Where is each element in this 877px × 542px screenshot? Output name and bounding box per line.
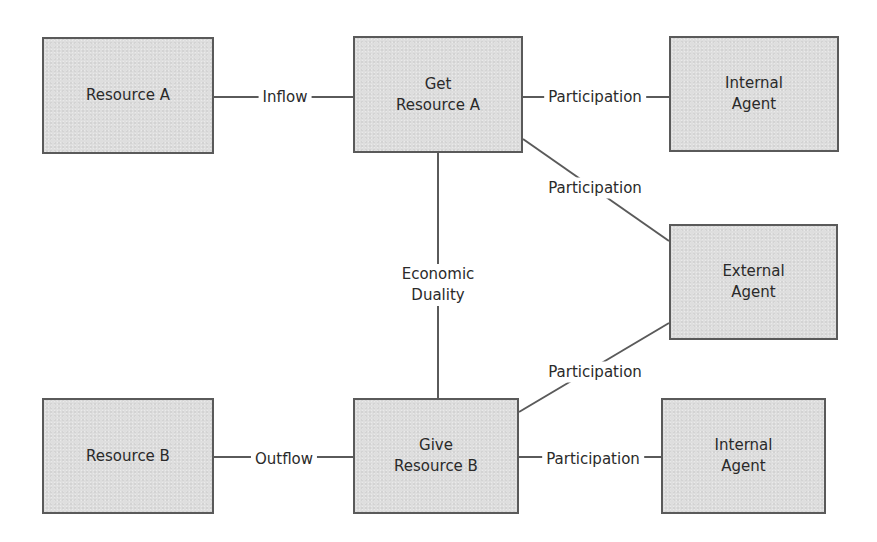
node-label: Give Resource B [394,435,478,477]
node-label: Get Resource A [396,74,480,116]
node-label: Internal Agent [725,73,783,115]
edge-label-participation-give-external: Participation [544,362,646,383]
node-resource-a: Resource A [42,37,214,154]
edge-label-participation-get-external: Participation [544,178,646,199]
edge-label-participation-get-internal: Participation [544,87,646,108]
node-external-agent: External Agent [669,224,838,340]
edge-label-inflow: Inflow [259,87,312,108]
node-resource-b: Resource B [42,398,214,514]
node-label: Resource A [86,85,170,106]
node-label: Internal Agent [715,435,773,477]
edge-label-economic-duality: Economic Duality [398,264,479,306]
node-internal-agent-bottom: Internal Agent [661,398,826,514]
node-internal-agent-top: Internal Agent [669,36,839,152]
node-give-resource-b: Give Resource B [353,398,519,514]
node-get-resource-a: Get Resource A [353,36,523,153]
edge-label-participation-give-internal: Participation [542,449,644,470]
node-label: Resource B [86,446,170,467]
diagram-canvas: Inflow Participation Participation Econo… [0,0,877,542]
edge-label-outflow: Outflow [251,449,317,470]
node-label: External Agent [722,261,784,303]
